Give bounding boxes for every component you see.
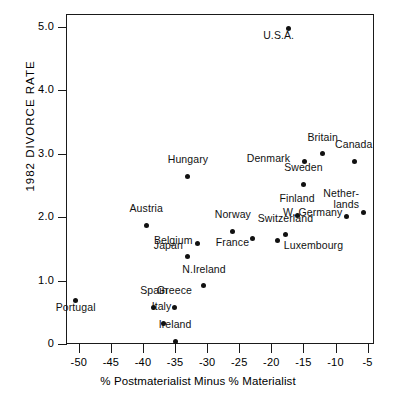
data-point-label: Switzerland (258, 212, 313, 223)
y-tick-label: 0 (0, 337, 54, 349)
y-tick-label: 1.0 (0, 274, 54, 286)
data-point-label: Austria (130, 203, 163, 214)
data-point-label: Finland (279, 193, 314, 204)
data-point-label: Ireland (159, 319, 192, 330)
x-tick-mark (336, 344, 337, 353)
data-point (301, 182, 306, 187)
data-point-label: Portugal (56, 302, 96, 313)
x-tick-mark (79, 344, 80, 353)
x-tick-mark (111, 344, 112, 353)
y-tick-mark (58, 344, 67, 345)
data-point-label: Japan (154, 240, 183, 251)
data-point-label: Britain (307, 131, 337, 142)
x-tick-mark (271, 344, 272, 353)
data-point-label: Luxembourg (284, 239, 343, 250)
data-point (361, 210, 366, 215)
scatter-plot-figure: 01.02.03.04.05.0 -50-45-40-35-30-25-20-1… (0, 0, 396, 401)
x-tick-mark (368, 344, 369, 353)
plot-area-frame (66, 14, 374, 344)
data-point-label: Greece (157, 285, 192, 296)
y-tick-mark (58, 217, 67, 218)
data-point-label: N.Ireland (182, 263, 226, 274)
data-point-label: Norway (215, 209, 251, 220)
y-tick-mark (58, 281, 67, 282)
y-tick-label: 5.0 (0, 20, 54, 32)
data-point (172, 305, 177, 310)
data-point (250, 236, 255, 241)
data-point-label: U.S.A. (263, 30, 294, 41)
x-tick-label: -5 (348, 356, 388, 368)
x-tick-mark (239, 344, 240, 353)
data-point-label: France (216, 237, 249, 248)
data-point (344, 214, 349, 219)
data-point (230, 229, 235, 234)
y-tick-mark (58, 154, 67, 155)
x-axis-title: % Postmaterialist Minus % Materialist (0, 375, 396, 387)
x-tick-mark (175, 344, 176, 353)
data-point-label: Hungary (168, 154, 208, 165)
data-point-label: Italy (152, 301, 172, 312)
x-tick-mark (303, 344, 304, 353)
data-point-label: Canada (335, 139, 372, 150)
data-point (352, 159, 357, 164)
x-tick-mark (143, 344, 144, 353)
data-point (144, 223, 149, 228)
y-tick-mark (58, 90, 67, 91)
y-axis-title: 1982 DIVORCE RATE (24, 41, 36, 211)
data-point (173, 339, 178, 344)
y-tick-label: 2.0 (0, 210, 54, 222)
data-point-label: Sweden (284, 162, 323, 173)
x-tick-mark (207, 344, 208, 353)
y-tick-mark (58, 27, 67, 28)
